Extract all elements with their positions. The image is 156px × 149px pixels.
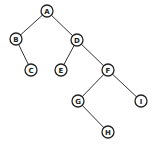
node-label: F — [106, 67, 111, 75]
edge-f-i — [108, 70, 141, 101]
node-label: C — [28, 67, 33, 75]
binary-tree-diagram: ABCDEFGIH — [0, 0, 156, 149]
node-label: E — [59, 67, 64, 75]
tree-node-c: C — [25, 64, 37, 76]
tree-node-f: F — [102, 64, 114, 76]
tree-node-b: B — [10, 33, 22, 45]
node-label: A — [44, 8, 50, 16]
node-label: I — [140, 98, 143, 106]
tree-node-a: A — [41, 5, 53, 17]
tree-nodes: ABCDEFGIH — [10, 5, 147, 138]
node-label: D — [74, 37, 80, 45]
node-label: H — [105, 129, 111, 137]
tree-node-d: D — [71, 34, 83, 46]
tree-node-i: I — [135, 95, 147, 107]
node-label: G — [75, 98, 81, 106]
tree-node-g: G — [72, 95, 84, 107]
tree-node-e: E — [55, 64, 67, 76]
node-label: B — [13, 36, 18, 44]
tree-node-h: H — [102, 126, 114, 138]
